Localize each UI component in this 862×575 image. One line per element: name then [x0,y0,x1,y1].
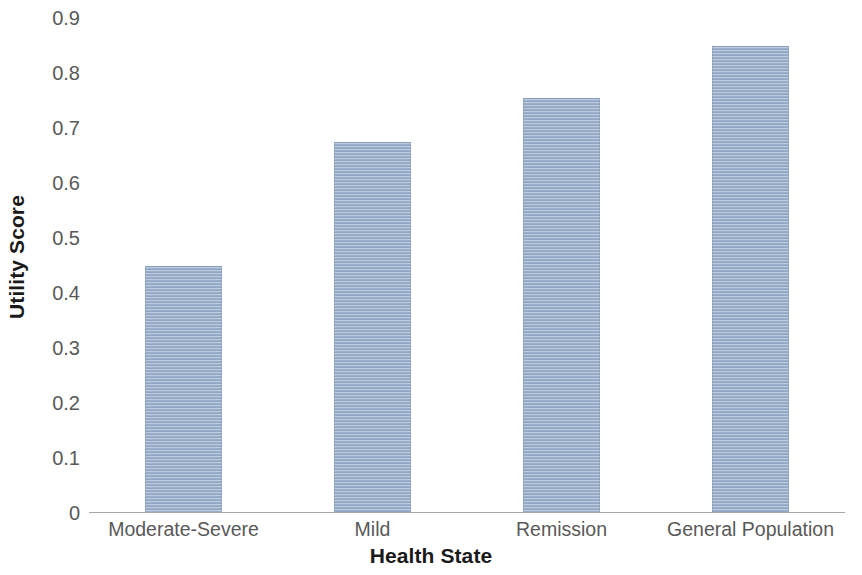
bar [712,46,789,514]
x-axis-title: Health State [0,544,862,568]
bar [334,142,411,513]
y-axis-tick-label: 0.8 [15,63,89,83]
x-axis-tick-label: Remission [516,516,607,542]
y-axis-tick-label: 0 [15,503,89,523]
y-axis-tick-label: 0.6 [15,173,89,193]
y-axis-tick-label: 0.7 [15,118,89,138]
x-axis-line [89,512,845,513]
y-axis-tick-label: 0.4 [15,283,89,303]
bars-layer [89,0,845,513]
y-axis-tick-label: 0.9 [15,8,89,28]
x-axis-title-label: Health State [370,544,493,567]
x-axis-tick-label: Mild [355,516,391,542]
bar-chart-figure: Utility Score 00.10.20.30.40.50.60.70.80… [0,0,862,575]
bar [523,98,600,513]
x-axis-tick-labels: Moderate-SevereMildRemissionGeneral Popu… [89,516,845,544]
y-axis-tick-label: 0.1 [15,448,89,468]
x-axis-tick-label: Moderate-Severe [108,516,259,542]
y-axis-tick-labels: 00.10.20.30.40.50.60.70.80.9 [0,0,89,575]
y-axis-tick-label: 0.3 [15,338,89,358]
y-axis-tick-label: 0.2 [15,393,89,413]
x-axis-tick-label: General Population [667,516,834,542]
y-axis-tick-label: 0.5 [15,228,89,248]
bar [145,266,222,514]
